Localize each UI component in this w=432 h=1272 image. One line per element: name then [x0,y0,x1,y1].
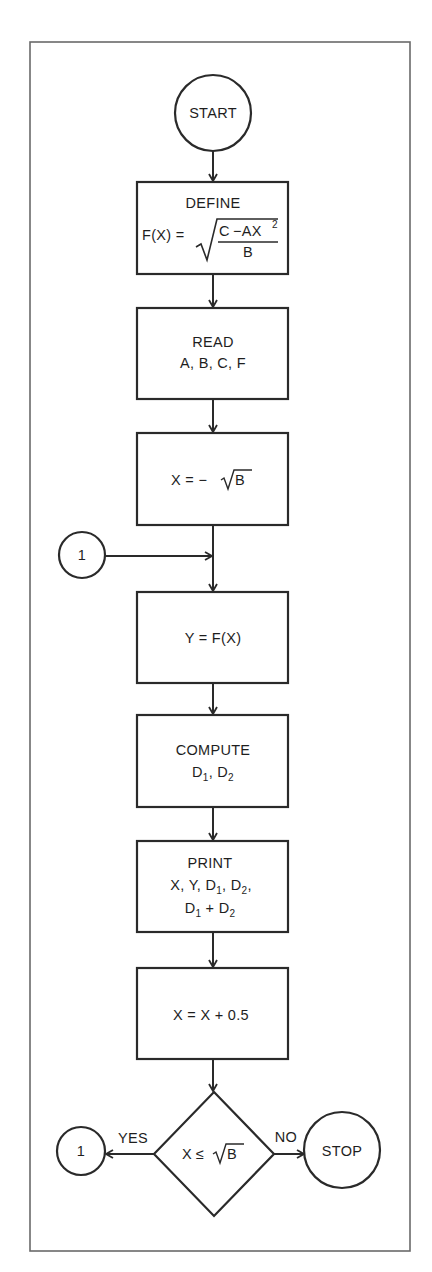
init-x-lhs: X = − [171,472,207,488]
decision-lhs: X [182,1146,192,1162]
print-box: PRINT X, Y, D1, D2, D1 + D2 [137,841,288,932]
increment-label: X = X + 0.5 [173,1007,249,1023]
define-denominator: B [243,244,253,260]
define-formula-lhs: F(X) = [142,227,184,243]
compute-d-box: COMPUTE D1, D2 [137,715,288,807]
increment-box: X = X + 0.5 [137,968,288,1059]
decision-operator: ≤ [196,1146,204,1162]
define-numerator-exp: 2 [272,219,278,230]
define-numerator-c: C [219,223,230,239]
compute-d-title: COMPUTE [176,742,251,758]
compute-y-box: Y = F(X) [137,592,288,683]
decision-radicand: B [227,1146,237,1162]
flowchart-diagram: START DEFINE F(X) = C −AX 2 B READ A, B,… [0,0,432,1272]
compute-y-label: Y = F(X) [185,630,242,646]
connector-in-label: 1 [78,547,86,563]
define-numerator-ax: −AX [233,223,262,239]
stop-node: STOP [304,1112,380,1188]
define-box: DEFINE F(X) = C −AX 2 B [137,182,288,274]
define-title: DEFINE [186,195,241,211]
yes-label: YES [118,1130,148,1146]
decision-diamond: X ≤ B [154,1092,274,1216]
stop-label: STOP [322,1143,362,1159]
start-node: START [175,75,251,151]
read-title: READ [192,334,234,350]
read-box: READ A, B, C, F [137,308,288,399]
print-title: PRINT [188,855,233,871]
start-label: START [189,105,237,121]
init-x-box: X = − B [137,433,288,525]
connector-1-out: 1 [57,1127,105,1175]
init-x-radicand: B [235,472,245,488]
read-variables: A, B, C, F [180,355,246,371]
connector-1-in: 1 [59,532,105,578]
connector-out-label: 1 [77,1143,85,1159]
no-label: NO [275,1129,297,1145]
